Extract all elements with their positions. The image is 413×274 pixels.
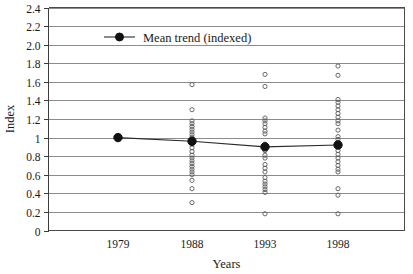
y-axis-title: Index [3, 104, 17, 133]
ytick-label: 1.6 [26, 77, 41, 89]
xtick-label: 1979 [107, 238, 130, 250]
ytick-label: 2.4 [26, 3, 41, 15]
legend-marker-icon [116, 33, 124, 41]
scatter-plot: 2.42.22.01.81.61.41.210.80.60.40.20 Mean… [0, 0, 413, 274]
chart-figure: 2.42.22.01.81.61.41.210.80.60.40.20 Mean… [0, 0, 413, 274]
ytick-label: 1.8 [26, 58, 41, 70]
ytick-label: 2.0 [26, 40, 41, 52]
ytick-label: 0.8 [26, 151, 41, 163]
ytick-label: 0 [35, 226, 41, 238]
mean-trend-point [261, 143, 269, 151]
mean-trend-point [188, 137, 196, 145]
x-axis-title: Years [213, 257, 241, 271]
ytick-label: 2.2 [26, 21, 41, 33]
ytick-label: 0.2 [26, 207, 41, 219]
xtick-label: 1988 [181, 238, 204, 250]
mean-trend-point [334, 141, 342, 149]
ytick-label: 1.4 [26, 95, 41, 107]
mean-trend-point [114, 133, 122, 141]
xtick-label: 1998 [327, 238, 350, 250]
ytick-label: 0.4 [26, 188, 41, 200]
ytick-label: 0.6 [26, 170, 41, 182]
xtick-label: 1993 [254, 238, 277, 250]
ytick-label: 1.2 [26, 114, 41, 126]
legend-label-mean-trend: Mean trend (indexed) [143, 31, 251, 45]
ytick-label: 1 [35, 133, 41, 145]
